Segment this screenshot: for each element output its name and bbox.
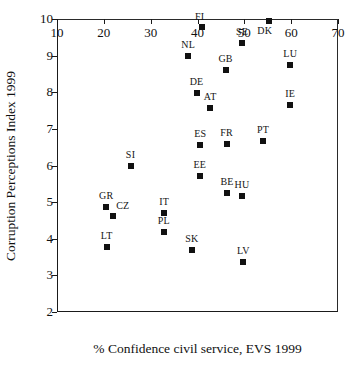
data-point-label: LV [237,245,250,256]
x-tick-mark [104,19,105,24]
data-point-marker [223,67,229,73]
x-tick-mark [244,19,245,24]
y-tick-label: 8 [47,83,54,100]
data-point-label: ES [194,128,206,139]
data-point-marker [128,163,134,169]
data-point-label: FR [220,127,233,138]
data-point-marker [189,247,195,253]
data-point-label: SI [126,149,135,160]
scatter-plot-figure: Corruption Perceptions Index 1999 234567… [0,0,360,369]
x-tick-label: 10 [51,25,64,41]
data-point-label: BE [220,176,233,187]
data-point-marker [197,173,203,179]
y-tick-label: 4 [47,230,54,247]
data-point-label: IE [285,88,295,99]
y-axis-title-text: Corruption Perceptions Index 1999 [3,70,19,260]
data-point-marker [161,229,167,235]
x-axis-title: % Confidence civil service, EVS 1999 [57,340,338,357]
data-point-label: EE [194,159,207,170]
y-tick-label: 6 [47,157,54,174]
y-axis-title: Corruption Perceptions Index 1999 [0,19,22,312]
data-point-marker [103,204,109,210]
data-point-label: IT [159,196,169,207]
x-tick-mark [151,19,152,24]
data-point-label: FI [195,11,204,22]
data-point-marker [185,53,191,59]
data-point-marker [239,193,245,199]
x-axis-title-text: % Confidence civil service, EVS 1999 [93,341,301,356]
data-point-marker [224,141,230,147]
data-point-marker [104,244,110,250]
data-point-marker [207,105,213,111]
x-tick-mark [338,19,339,24]
x-tick-label: 60 [285,25,298,41]
data-point-label: PT [257,124,269,135]
data-point-label: SE [236,26,248,37]
plot-area: 2345678910 10203040506070 FISEDKNLGBLUDE… [57,19,338,312]
data-point-marker [224,190,230,196]
data-point-label: LT [101,230,113,241]
data-point-label: DE [190,76,204,87]
data-point-label: PL [158,215,170,226]
data-point-label: LU [283,48,297,59]
y-tick-label: 7 [47,120,54,137]
x-tick-label: 20 [97,25,110,41]
data-point-label: DK [257,25,272,36]
data-point-label: HU [235,179,250,190]
y-tick-label: 9 [47,47,54,64]
data-point-marker [197,142,203,148]
data-point-marker [239,40,245,46]
data-point-marker [287,62,293,68]
data-point-label: GB [218,53,232,64]
x-tick-mark [57,19,58,24]
x-tick-label: 30 [144,25,157,41]
data-point-label: GR [99,190,113,201]
x-tick-mark [291,19,292,24]
y-tick-label: 3 [47,266,54,283]
data-point-marker [287,102,293,108]
data-point-label: NL [181,39,195,50]
data-point-marker [260,138,266,144]
data-point-marker [199,24,205,30]
data-point-marker [110,213,116,219]
data-point-label: SK [185,233,198,244]
data-point-label: AT [204,91,217,102]
x-tick-label: 70 [332,25,345,41]
data-point-marker [240,259,246,265]
y-tick-label: 5 [47,193,54,210]
data-point-marker [194,90,200,96]
data-point-label: CZ [116,200,129,211]
y-tick-label: 2 [47,303,54,320]
data-point-marker [266,18,272,24]
